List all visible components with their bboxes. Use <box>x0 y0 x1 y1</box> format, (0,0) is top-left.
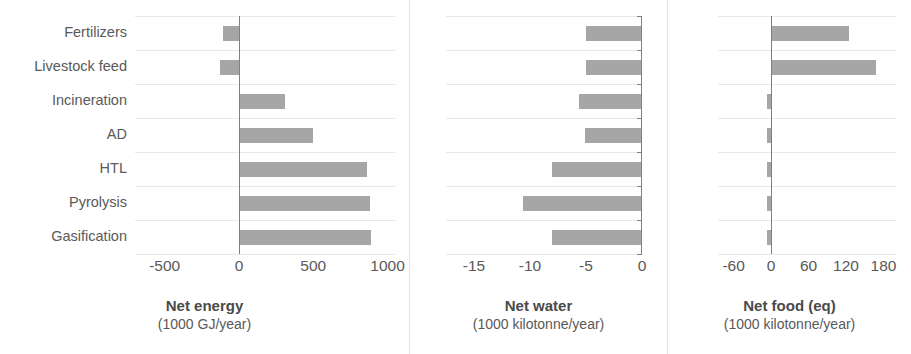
gridline <box>135 16 395 17</box>
plot-area-net-energy <box>135 16 395 254</box>
category-label: Fertilizers <box>64 25 127 40</box>
gridline <box>446 152 642 153</box>
value-axis-line <box>641 16 642 254</box>
axis-title: Net energy <box>0 297 409 314</box>
category-label: HTL <box>100 161 127 176</box>
category-axis-labels: Fertilizers Livestock feed Incineration … <box>0 16 131 254</box>
x-tick-label: 500 <box>300 258 326 274</box>
x-tick-label: 120 <box>833 258 859 274</box>
gridline <box>135 84 395 85</box>
tick-mark <box>637 16 642 17</box>
axis-unit: (1000 kilotonne/year) <box>668 316 911 334</box>
plot-area-net-water <box>446 16 642 254</box>
category-label: Gasification <box>51 229 127 244</box>
axis-unit: (1000 GJ/year) <box>0 316 409 334</box>
gridline <box>446 254 642 255</box>
gridline <box>446 118 642 119</box>
gridline <box>718 254 896 255</box>
gridline <box>718 118 896 119</box>
gridline <box>446 186 642 187</box>
bar-pyrolysis <box>239 196 370 211</box>
bar-ad <box>585 128 642 143</box>
gridline <box>446 16 642 17</box>
gridline <box>718 186 896 187</box>
three-panel-bar-chart: Fertilizers Livestock feed Incineration … <box>0 0 911 354</box>
tick-mark <box>637 84 642 85</box>
bar-gasification <box>552 230 642 245</box>
tick-mark <box>637 50 642 51</box>
axis-title-block-net-energy: Net energy (1000 GJ/year) <box>0 297 409 334</box>
tick-mark <box>637 118 642 119</box>
gridline <box>135 186 395 187</box>
gridline <box>135 254 395 255</box>
category-label: AD <box>107 127 127 142</box>
x-tick-label: -500 <box>149 258 180 274</box>
x-tick-label: 180 <box>871 258 897 274</box>
bar-incineration <box>239 94 285 109</box>
gridline <box>135 118 395 119</box>
x-tick-label: 0 <box>638 258 647 274</box>
gridline <box>135 50 395 51</box>
bar-fertilizers <box>586 26 642 41</box>
x-tick-label: -5 <box>579 258 593 274</box>
x-tick-label: 1000 <box>370 258 404 274</box>
plot-area-net-food <box>718 16 896 254</box>
x-tick-labels-net-energy: -50005001000 <box>0 258 409 280</box>
x-tick-label: -60 <box>722 258 744 274</box>
bar-livestock-feed <box>586 60 642 75</box>
tick-mark <box>637 254 642 255</box>
x-tick-label: -15 <box>463 258 485 274</box>
gridline <box>718 152 896 153</box>
x-tick-label: 0 <box>767 258 776 274</box>
axis-title-block-net-water: Net water (1000 kilotonne/year) <box>410 297 667 334</box>
gridline <box>718 16 896 17</box>
gridline <box>718 50 896 51</box>
bar-ad <box>239 128 313 143</box>
x-tick-labels-net-water: -15-10-50 <box>410 258 668 280</box>
x-tick-labels-net-food: -60060120180 <box>668 258 911 280</box>
tick-mark <box>637 220 642 221</box>
zero-line <box>771 16 772 254</box>
zero-line <box>239 16 240 254</box>
bar-htl <box>552 162 642 177</box>
axis-unit: (1000 kilotonne/year) <box>410 316 667 334</box>
gridline <box>135 220 395 221</box>
bar-fertilizers <box>771 26 849 41</box>
x-tick-label: 0 <box>235 258 244 274</box>
panel-net-energy: Fertilizers Livestock feed Incineration … <box>0 0 409 354</box>
axis-title: Net water <box>410 297 667 314</box>
bar-livestock-feed <box>220 60 239 75</box>
gridline <box>446 84 642 85</box>
gridline <box>718 220 896 221</box>
x-tick-label: 60 <box>800 258 817 274</box>
category-label: Pyrolysis <box>69 195 127 210</box>
bar-pyrolysis <box>523 196 642 211</box>
tick-mark <box>637 186 642 187</box>
gridline <box>718 84 896 85</box>
bar-gasification <box>239 230 371 245</box>
category-label: Incineration <box>52 93 127 108</box>
tick-mark <box>637 152 642 153</box>
gridline <box>135 152 395 153</box>
gridline <box>446 50 642 51</box>
panel-net-water: -15-10-50 Net water (1000 kilotonne/year… <box>409 0 667 354</box>
x-tick-label: -10 <box>519 258 541 274</box>
axis-title-block-net-food: Net food (eq) (1000 kilotonne/year) <box>668 297 911 334</box>
panel-net-food: -60060120180 Net food (eq) (1000 kiloton… <box>667 0 911 354</box>
bar-fertilizers <box>223 26 239 41</box>
gridline <box>446 220 642 221</box>
bar-livestock-feed <box>771 60 876 75</box>
category-label: Livestock feed <box>34 59 127 74</box>
axis-title: Net food (eq) <box>668 297 911 314</box>
bar-htl <box>239 162 367 177</box>
bar-incineration <box>579 94 642 109</box>
